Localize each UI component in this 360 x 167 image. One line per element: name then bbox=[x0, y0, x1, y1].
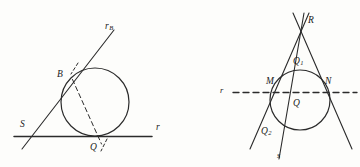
left-label-point-s: S bbox=[20, 120, 25, 130]
left-dashed-chord bbox=[73, 80, 102, 145]
right-label-point-m: M bbox=[266, 77, 274, 87]
right-tangent-right bbox=[293, 13, 352, 149]
right-label-point-q1: Q1 bbox=[293, 57, 304, 67]
left-label-point-b: B bbox=[57, 70, 63, 80]
left-label-line-r: r bbox=[156, 123, 160, 133]
right-label-point-n: N bbox=[325, 77, 332, 87]
left-diagram-group bbox=[14, 30, 152, 151]
left-tick-upper bbox=[71, 63, 78, 74]
geometry-figure-panel: rB B S Q r R Q1 M N Q Q2 r s bbox=[0, 0, 360, 167]
left-circle bbox=[61, 68, 129, 136]
left-label-point-q: Q bbox=[90, 143, 97, 153]
geometry-figure-svg bbox=[0, 0, 360, 167]
right-diagram-group bbox=[233, 13, 357, 159]
right-label-line-r: r bbox=[220, 86, 224, 95]
right-label-point-q: Q bbox=[293, 99, 300, 109]
right-label-point-r: R bbox=[308, 16, 314, 26]
right-line-s bbox=[279, 13, 304, 159]
left-label-line-rb: rB bbox=[105, 22, 113, 32]
right-label-line-s: s bbox=[277, 151, 281, 160]
left-line-rb bbox=[22, 30, 114, 149]
right-label-point-q2: Q2 bbox=[261, 127, 272, 137]
left-tick-lower bbox=[101, 139, 107, 151]
